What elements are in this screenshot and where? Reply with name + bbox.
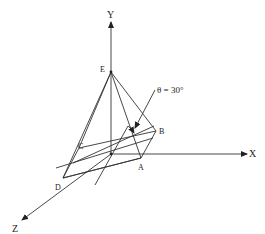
angle-label: θ = 30° xyxy=(157,85,184,95)
edge-EA xyxy=(111,72,141,158)
edge-EC xyxy=(79,72,111,148)
z-axis xyxy=(22,154,111,220)
point-A-label: A xyxy=(138,163,144,172)
point-D-label: D xyxy=(55,183,61,192)
hatch-line xyxy=(73,126,154,163)
inclined-line xyxy=(95,126,128,185)
pyramid-diagram: Y X Z E A B C D θ = 30° xyxy=(0,0,265,234)
point-C-label: C xyxy=(78,142,83,151)
point-E-label: E xyxy=(100,65,105,74)
origin-dot xyxy=(110,153,113,156)
y-axis-label: Y xyxy=(107,9,114,20)
angle-leader xyxy=(135,90,155,128)
point-B-label: B xyxy=(159,127,164,136)
edge-ED xyxy=(63,72,111,178)
z-axis-label: Z xyxy=(12,223,18,234)
point-E-dot xyxy=(110,71,113,74)
x-axis-label: X xyxy=(249,148,257,159)
